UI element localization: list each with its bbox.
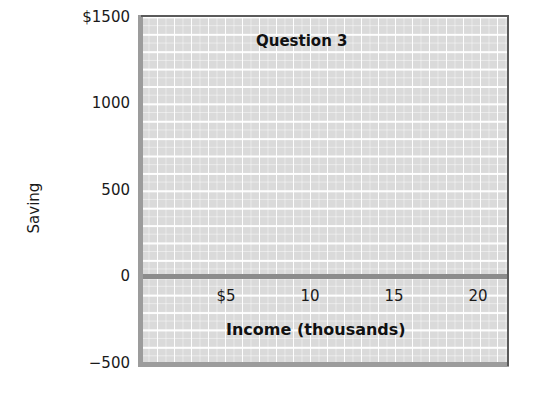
x-axis-label: Income (thousands) — [226, 320, 406, 339]
x-tick-label-15: 15 — [384, 287, 403, 305]
y-tick-label-1000: 1000 — [92, 94, 130, 112]
chart-title: Question 3 — [256, 32, 348, 50]
plot-frame-right — [507, 15, 509, 366]
y-tick-label-1500: $1500 — [82, 8, 130, 26]
zero-axis-line — [141, 274, 509, 279]
y-axis-label: Saving — [25, 183, 43, 234]
plot-frame-left — [138, 15, 143, 367]
plot-frame-bottom — [138, 362, 509, 367]
y-tick-label-500: 500 — [101, 181, 130, 199]
plot-area-grid — [141, 16, 508, 364]
chart-figure: Question 3 $1500 1000 500 0 −500 $5 10 1… — [0, 0, 541, 398]
x-tick-label-10: 10 — [300, 287, 319, 305]
y-tick-label-minus-500: −500 — [89, 354, 130, 372]
x-tick-label-5: $5 — [216, 287, 235, 305]
y-tick-label-0: 0 — [120, 267, 130, 285]
plot-frame-top — [141, 15, 509, 17]
x-tick-label-20: 20 — [468, 287, 487, 305]
